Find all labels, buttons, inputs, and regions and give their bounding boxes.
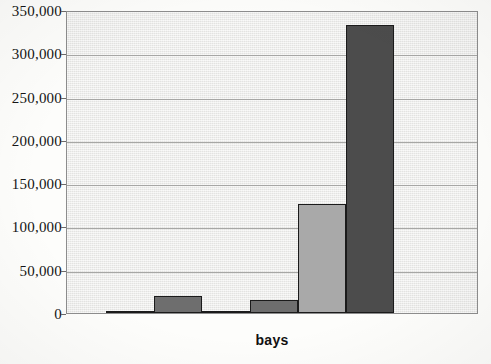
x-axis-title: bays [66, 332, 478, 348]
bar [298, 204, 346, 313]
y-tick-label: 250,000 [0, 89, 62, 106]
chart-page: 050,000100,000150,000200,000250,000300,0… [0, 0, 491, 364]
bar-chart: 050,000100,000150,000200,000250,000300,0… [0, 0, 491, 364]
plot-area [66, 11, 478, 314]
y-tick-label: 0 [0, 306, 62, 323]
y-tick-label: 300,000 [0, 46, 62, 63]
bar [250, 300, 298, 313]
y-tick-label: 200,000 [0, 132, 62, 149]
bar [154, 296, 202, 313]
bar [106, 311, 154, 314]
y-tick-label: 100,000 [0, 219, 62, 236]
bar-series [67, 12, 477, 313]
y-tick-label: 350,000 [0, 3, 62, 20]
bar [346, 25, 394, 313]
bar [202, 311, 250, 314]
y-tick-label: 50,000 [0, 262, 62, 279]
y-tick-label: 150,000 [0, 176, 62, 193]
y-tick-mark [61, 314, 66, 315]
